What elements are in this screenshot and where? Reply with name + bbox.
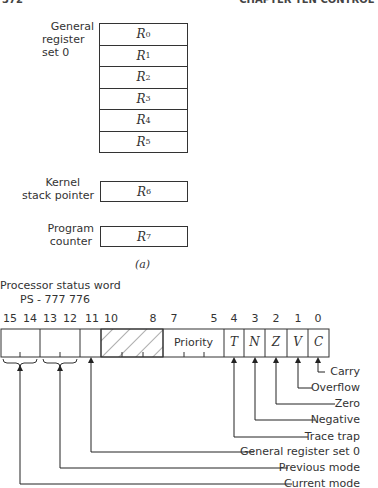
legend-previous-mode: Previous mode — [279, 461, 360, 474]
brace-bits-15-14 — [3, 359, 37, 367]
legend-overflow: Overflow — [311, 381, 360, 394]
field-z: Z — [265, 335, 287, 349]
brace-bits-13-12 — [43, 359, 77, 367]
field-n: N — [244, 335, 265, 349]
field-priority: Priority — [163, 336, 224, 349]
field-v: V — [287, 335, 308, 349]
legend-general-register-set: General register set 0 — [240, 445, 360, 458]
legend-trace-trap: Trace trap — [305, 430, 360, 443]
field-t: T — [224, 335, 244, 349]
field-c: C — [308, 335, 329, 349]
legend-zero: Zero — [335, 397, 360, 410]
legend-carry: Carry — [330, 365, 360, 378]
unused-bits-hatch — [101, 329, 163, 357]
legend-current-mode: Current mode — [284, 477, 360, 488]
legend-negative: Negative — [311, 413, 360, 426]
